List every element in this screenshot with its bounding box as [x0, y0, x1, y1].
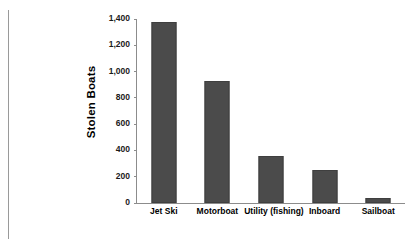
bar[interactable] [205, 81, 230, 203]
bar-slot [137, 19, 191, 203]
x-axis-category-label: Utility (fishing) [244, 206, 298, 217]
bar-slot [351, 19, 405, 203]
y-axis-tick-label: 0 [125, 197, 130, 208]
bar[interactable] [151, 22, 176, 203]
x-axis-category-label: Jet Ski [137, 206, 191, 217]
bar-slot [298, 19, 352, 203]
plot-area [137, 19, 405, 203]
x-axis-line [136, 203, 405, 204]
bar-slot [244, 19, 298, 203]
y-axis-title-label: Stolen Boats [85, 65, 97, 138]
bar[interactable] [312, 170, 337, 203]
x-axis-category-label: Inboard [298, 206, 352, 217]
y-axis-tick-label: 200 [116, 171, 130, 182]
x-axis-category-label: Motorboat [191, 206, 245, 217]
y-axis-tick-label: 600 [116, 118, 130, 129]
y-axis-tick-label: 1,000 [109, 66, 130, 77]
bar[interactable] [366, 198, 391, 203]
y-axis-title: Stolen Boats [78, 0, 104, 203]
y-axis-tick-label: 400 [116, 144, 130, 155]
bar[interactable] [258, 156, 283, 203]
stolen-boats-bar-chart: Stolen Boats 02004006008001,0001,2001,40… [0, 0, 410, 239]
x-axis-category-label: Sailboat [351, 206, 405, 217]
y-axis-tick-label: 800 [116, 92, 130, 103]
bar-slot [191, 19, 245, 203]
y-axis-tick-label: 1,200 [109, 39, 130, 50]
y-axis-tick-label: 1,400 [109, 13, 130, 24]
